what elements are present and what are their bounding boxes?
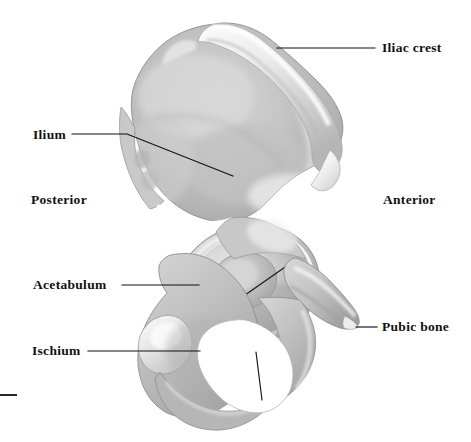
anatomy-figure: Iliac crest Ilium Acetabulum Ischium Pub… xyxy=(0,0,471,442)
label-ischium: Ischium xyxy=(32,344,81,358)
page-margin-rule xyxy=(0,394,17,396)
hip-bone-illustration xyxy=(0,0,471,442)
label-anterior: Anterior xyxy=(383,193,436,207)
bone-body xyxy=(120,23,360,430)
label-acetabulum: Acetabulum xyxy=(33,278,107,292)
label-iliac-crest: Iliac crest xyxy=(382,41,442,55)
label-ilium: Ilium xyxy=(33,128,66,142)
ilium-acetabulum-junction xyxy=(216,214,306,259)
label-posterior: Posterior xyxy=(31,193,87,207)
label-pubic-bone: Pubic bone xyxy=(382,320,449,334)
